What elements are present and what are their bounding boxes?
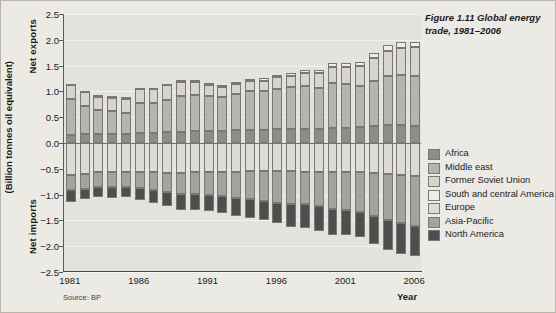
bar-segment-middle-east [272,89,282,129]
bar-segment-asia-pacific [328,172,338,209]
y-tick-label: 0.0 [46,138,59,149]
bar-segment-north-america [149,190,159,203]
bar-segment-asia-pacific [107,172,117,187]
bar-segment-asia-pacific [66,175,76,190]
bar-1981[interactable] [66,14,76,272]
bar-1986[interactable] [135,14,145,272]
legend-swatch-icon [428,190,440,201]
bar-segment-south-and-central-america [314,70,324,74]
bar-segment-former-soviet-union [314,73,324,87]
bar-segment-middle-east [286,87,296,128]
legend-item-africa[interactable]: Africa [428,148,556,160]
bar-segment-former-soviet-union [245,81,255,91]
bar-segment-former-soviet-union [121,99,131,113]
bar-segment-south-and-central-america [355,62,365,66]
bar-1999[interactable] [314,14,324,272]
bar-1991[interactable] [204,14,214,272]
y-tick-mark [59,117,63,118]
bar-1993[interactable] [231,14,241,272]
bar-1989[interactable] [176,14,186,272]
plot-area [63,14,421,272]
bar-segment-north-america [410,226,420,256]
y-tick-label: −1.0 [40,189,59,200]
x-tick-label: 1991 [197,275,218,286]
bar-segment-former-soviet-union [259,81,269,92]
legend-item-europe[interactable]: Europe [428,202,556,214]
bar-segment-former-soviet-union [162,85,172,99]
bar-2001[interactable] [341,14,351,272]
bar-segment-asia-pacific [383,174,393,220]
bar-segment-middle-east [369,81,379,126]
legend-item-middle-east[interactable]: Middle east [428,162,556,174]
bar-1992[interactable] [217,14,227,272]
bar-2005[interactable] [396,14,406,272]
legend-item-former-soviet-union[interactable]: Former Soviet Union [428,175,556,187]
bar-segment-north-america [383,220,393,250]
bar-1996[interactable] [272,14,282,272]
bar-1983[interactable] [93,14,103,272]
gridline [64,91,421,92]
bar-segment-south-and-central-america [245,79,255,82]
bar-segment-middle-east [410,76,420,126]
bar-segment-europe [176,143,186,173]
bar-1998[interactable] [300,14,310,272]
bar-segment-south-and-central-america [259,78,269,81]
bar-2002[interactable] [355,14,365,272]
bar-segment-south-and-central-america [217,85,227,87]
bar-segment-europe [66,143,76,175]
bar-segment-africa [217,131,227,143]
gridline [64,246,421,247]
bar-segment-asia-pacific [162,173,172,192]
bar-segment-middle-east [314,88,324,129]
bar-segment-former-soviet-union [66,85,76,99]
bar-segment-africa [190,131,200,143]
legend-label: Asia-Pacific [445,216,494,228]
y-axis-tick-labels: 2.52.01.51.00.50.0−0.5−1.0−1.5−2.0−2.5 [19,14,59,272]
bar-1997[interactable] [286,14,296,272]
bar-1990[interactable] [190,14,200,272]
bar-segment-europe [272,143,282,171]
bar-segment-middle-east [300,86,310,129]
bar-1984[interactable] [107,14,117,272]
bar-segment-south-and-central-america [121,97,131,99]
legend-swatch-icon [428,163,440,174]
bar-1982[interactable] [80,14,90,272]
bar-segment-middle-east [355,86,365,127]
bar-segment-asia-pacific [135,172,145,189]
bar-segment-south-and-central-america [176,80,186,82]
bar-segment-europe [231,143,241,172]
bar-segment-asia-pacific [396,175,406,224]
bar-segment-europe [314,143,324,172]
bar-1995[interactable] [259,14,269,272]
bar-segment-asia-pacific [231,172,241,198]
bar-segment-north-america [107,187,117,197]
legend-item-north-america[interactable]: North America [428,229,556,241]
bar-2004[interactable] [383,14,393,272]
bar-segment-south-and-central-america [272,75,282,78]
bar-segment-north-america [396,223,406,254]
bar-segment-europe [162,143,172,173]
bar-1994[interactable] [245,14,255,272]
bar-segment-south-and-central-america [231,82,241,84]
bar-segment-north-america [231,198,241,217]
bar-2003[interactable] [369,14,379,272]
bar-segment-former-soviet-union [272,77,282,88]
bar-segment-asia-pacific [369,173,379,215]
bar-segment-former-soviet-union [204,85,214,96]
bar-segment-africa [259,130,269,143]
bar-segment-africa [80,134,90,143]
bar-segment-europe [300,143,310,172]
bar-segment-middle-east [93,110,103,134]
bar-1985[interactable] [121,14,131,272]
figure-frame: 2.52.01.51.00.50.0−0.5−1.0−1.5−2.0−2.5 N… [0,0,556,313]
bar-1988[interactable] [162,14,172,272]
bar-segment-middle-east [80,106,90,134]
bar-segment-former-soviet-union [328,67,338,83]
bar-segment-europe [149,143,159,172]
bar-segment-middle-east [328,83,338,127]
legend-item-south-and-central-america[interactable]: South and central America [428,189,556,201]
bar-1987[interactable] [149,14,159,272]
legend-item-asia-pacific[interactable]: Asia-Pacific [428,216,556,228]
bar-2000[interactable] [328,14,338,272]
bar-2006[interactable] [410,14,420,272]
